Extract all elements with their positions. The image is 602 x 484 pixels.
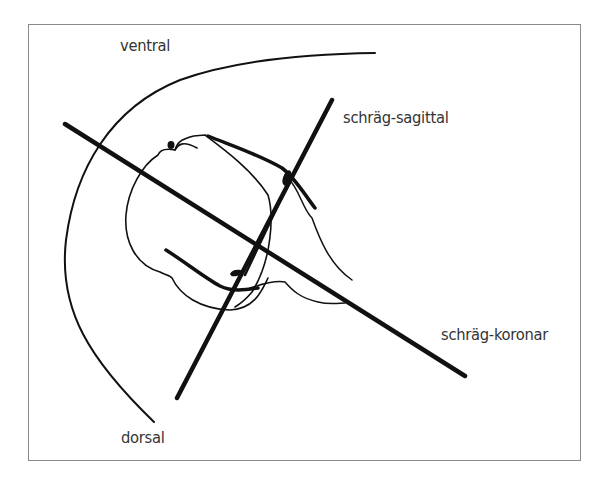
sagittal-plane-line — [177, 100, 332, 398]
label-dorsal: dorsal — [121, 428, 165, 447]
labrum-blob-top — [168, 141, 175, 149]
label-ventral: ventral — [120, 36, 170, 55]
label-coronal: schräg-koronar — [441, 325, 548, 344]
shoulder-plane-diagram — [0, 0, 602, 484]
glenoid-thin-right — [288, 178, 352, 280]
coronal-plane-line — [65, 124, 465, 376]
label-sagittal: schräg-sagittal — [343, 108, 448, 127]
glenoid-thick-upper — [208, 136, 315, 208]
